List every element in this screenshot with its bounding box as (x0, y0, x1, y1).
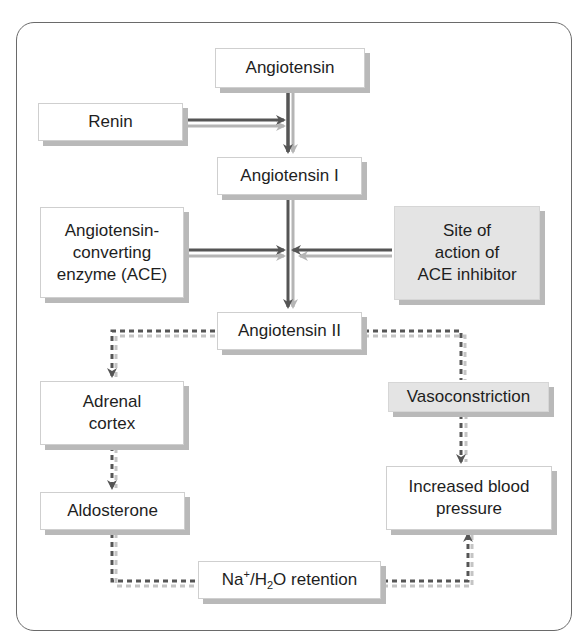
node-ace: Angiotensin- converting enzyme (ACE) (40, 207, 184, 298)
node-increased-blood-pressure: Increased blood pressure (386, 466, 552, 530)
node-angiotensin-ii: Angiotensin II (217, 312, 362, 350)
label-mid: /H (250, 570, 267, 589)
node-na-h2o-retention: Na+/H2O retention (198, 561, 381, 599)
node-vasoconstriction: Vasoconstriction (388, 382, 549, 412)
node-label-line: Adrenal (83, 391, 142, 413)
node-angiotensin: Angiotensin (215, 48, 365, 88)
node-renin: Renin (38, 103, 183, 141)
node-ace-inhibitor-site: Site of action of ACE inhibitor (394, 206, 540, 300)
node-label-line: Angiotensin- (65, 220, 160, 242)
node-angiotensin-i: Angiotensin I (217, 157, 362, 195)
node-label: Aldosterone (67, 500, 158, 522)
node-label: Vasoconstriction (407, 386, 530, 408)
node-label: Renin (88, 111, 132, 133)
node-label: Angiotensin (246, 57, 335, 79)
node-label-line: action of (435, 242, 499, 264)
node-adrenal-cortex: Adrenal cortex (40, 381, 184, 445)
node-aldosterone: Aldosterone (40, 492, 185, 530)
node-label-line: ACE inhibitor (417, 264, 516, 286)
node-label: Angiotensin I (240, 165, 338, 187)
node-label-line: pressure (436, 498, 502, 520)
node-label: Na+/H2O retention (222, 569, 357, 591)
label-suffix: O retention (273, 570, 357, 589)
dashed-arrows (112, 331, 472, 586)
node-label-line: converting (73, 242, 151, 264)
node-label-line: Site of (443, 220, 491, 242)
label-prefix: Na (222, 570, 244, 589)
node-label-line: Increased blood (409, 476, 530, 498)
node-label-line: cortex (89, 413, 135, 435)
node-label-line: enzyme (ACE) (57, 264, 168, 286)
node-label: Angiotensin II (238, 320, 341, 342)
solid-arrows (185, 89, 392, 307)
